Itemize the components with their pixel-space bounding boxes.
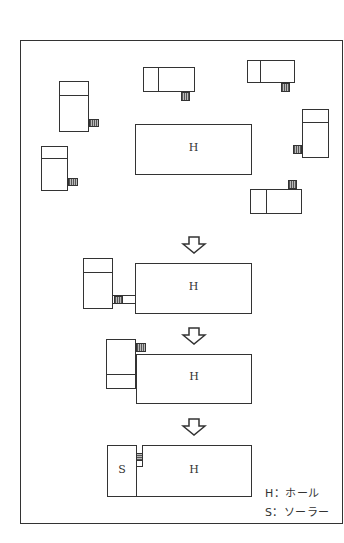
hall-label: H [137,463,251,476]
solar-module [41,146,68,191]
connector [288,180,297,189]
legend-hall: H：ホール [265,484,320,500]
connector [114,296,123,304]
connector [293,145,302,154]
hall-stage2: H [135,263,252,314]
solar-module [143,67,195,92]
solar-module [83,258,113,309]
hall-stage3: H [136,354,252,404]
hall-label: H [136,141,251,154]
connector [281,83,290,92]
solar-module [247,60,295,83]
down-arrow-icon [181,236,207,254]
connector [89,119,99,127]
connector [136,343,146,352]
solar-label: S [108,463,136,476]
solar-module [59,81,89,132]
solar-module [302,109,329,158]
legend-solar: S：ソーラー [265,503,330,519]
connector [68,178,78,186]
hall-label: H [137,370,251,383]
hall-stage4: S H [107,445,252,497]
connector [181,92,190,101]
hall-label: H [136,280,251,293]
down-arrow-icon [181,327,207,345]
hall-stage1: H [135,124,252,175]
down-arrow-icon [181,418,207,436]
solar-module [106,339,136,389]
connector [136,453,143,461]
solar-module [250,189,302,214]
